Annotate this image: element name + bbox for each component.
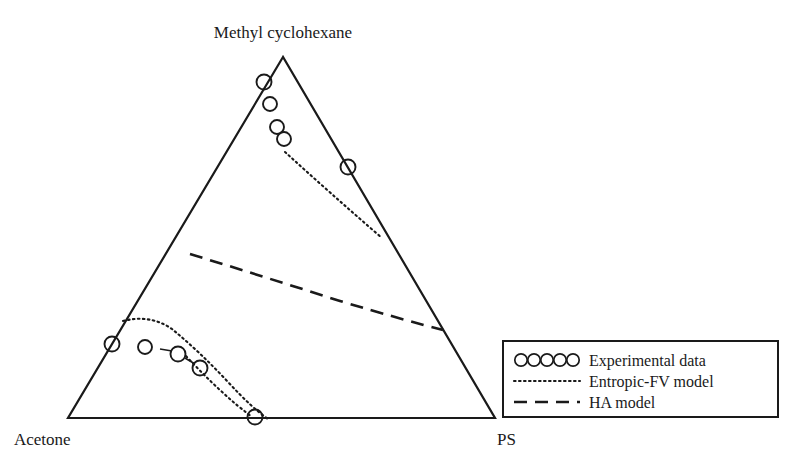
legend: Experimental data Entropic-FV model HA m…: [503, 341, 778, 417]
legend-label-ha-model: HA model: [589, 394, 656, 411]
experimental-data-markers: [105, 75, 356, 425]
ternary-diagram-canvas: Methyl cyclohexane Acetone PS Experiment…: [0, 0, 795, 472]
data-point-marker: [105, 337, 120, 352]
legend-item-entropic-fv: Entropic-FV model: [514, 373, 714, 391]
data-point-marker: [138, 340, 152, 354]
legend-label-entropic-fv: Entropic-FV model: [589, 373, 714, 391]
tie-line-lower-1: [160, 349, 172, 351]
corner-label-top: Methyl cyclohexane: [214, 23, 352, 42]
triangle-axes-group: [68, 57, 495, 418]
ternary-phase-diagram-figure: Methyl cyclohexane Acetone PS Experiment…: [0, 0, 795, 472]
data-point-marker: [277, 132, 291, 146]
data-point-marker: [263, 97, 277, 111]
corner-label-bottom-left: Acetone: [14, 430, 71, 449]
data-point-marker: [171, 347, 186, 362]
legend-item-ha-model: HA model: [514, 394, 656, 411]
legend-label-experimental-data: Experimental data: [589, 352, 706, 370]
legend-marker-circles-icon: [515, 354, 579, 366]
triangle-outline: [68, 57, 495, 418]
data-point-marker: [248, 410, 263, 425]
corner-label-bottom-right: PS: [497, 430, 516, 449]
data-point-marker: [193, 361, 208, 376]
legend-item-experimental-data: Experimental data: [515, 352, 706, 370]
entropic-fv-curve-group: [123, 152, 382, 419]
data-point-marker: [257, 75, 272, 90]
entropic-fv-curve-upper: [285, 152, 382, 238]
data-point-marker: [341, 160, 356, 175]
